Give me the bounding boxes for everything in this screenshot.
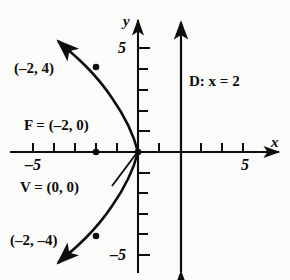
y-tick-label-minus5: –5: [110, 247, 126, 263]
curve-point-lower: [93, 233, 100, 240]
focus-point: [93, 149, 100, 156]
x-tick-label-5: 5: [241, 157, 249, 173]
y-axis: [138, 20, 150, 273]
directrix-label: D: x = 2: [189, 74, 240, 89]
x-axis-label: x: [271, 135, 279, 150]
y-tick-label-5: 5: [118, 40, 126, 56]
x-tick-label-minus5: –5: [25, 157, 41, 173]
vertex-label: V = (0, 0): [20, 180, 79, 195]
x-axis: [10, 143, 279, 152]
focus-label: F = (–2, 0): [24, 118, 89, 133]
point-label-upper: (–2, 4): [14, 61, 54, 76]
parabola-figure: y x 5 –5 5 –5 (–2, 4) (–2, –4) F = (–2, …: [0, 0, 290, 280]
curve-point-upper: [93, 64, 100, 71]
y-axis-label: y: [123, 14, 130, 29]
point-label-lower: (–2, –4): [10, 233, 58, 248]
